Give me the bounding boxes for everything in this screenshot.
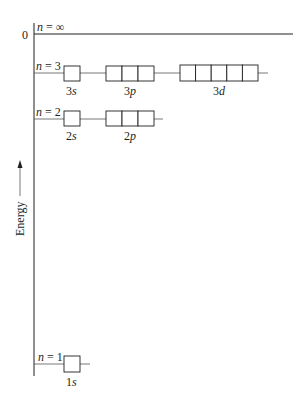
orbital-label: 3s [66,84,77,98]
orbital-2s: 2s [64,111,80,143]
level-label: n = 1 [38,350,63,364]
orbital-label: 1s [66,375,77,389]
orbital-label: 3p [124,84,136,98]
zero-label: 0 [22,28,28,42]
orbital-3d: 3d [180,65,258,98]
level-label: n = 2 [36,105,61,119]
orbital-label: 3d [213,84,226,98]
level-n-3: n = 3 3s 3p 3d [34,59,268,98]
up-arrow-icon [18,160,23,196]
energy-label: Energy [13,202,27,236]
orbital-1s: 1s [64,356,80,389]
orbital-label: 2p [124,129,136,143]
level-label: n = ∞ [37,20,64,34]
level-n-infinity: n = ∞ [34,20,293,34]
level-label: n = 3 [36,59,61,73]
orbital-3p: 3p [106,66,154,98]
orbital-label: 2s [66,129,77,143]
orbital-2p: 2p [106,111,154,143]
energy-level-diagram: 0 Energy n = ∞ n = 3 3s 3p [0,0,303,396]
level-n-2: n = 2 2s 2p [34,105,163,143]
energy-axis-label: Energy [13,202,27,236]
level-n-1: n = 1 1s [34,350,90,389]
orbital-3s: 3s [64,66,80,98]
